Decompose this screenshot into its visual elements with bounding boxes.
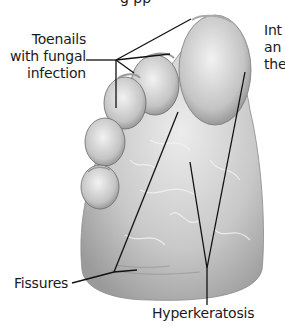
label-toenails-fungal-infection: Toenails with fungal infection xyxy=(0,31,86,82)
foot-illustration-figure: g pp xyxy=(0,0,285,327)
label-side-text-cropped: Int an the xyxy=(264,22,285,73)
label-line: the xyxy=(264,56,285,73)
fifth-toe xyxy=(81,165,119,209)
label-line: an xyxy=(264,39,285,56)
label-line: with fungal xyxy=(0,48,86,65)
label-line: Toenails xyxy=(0,31,86,48)
label-line: infection xyxy=(0,65,86,82)
label-hyperkeratosis: Hyperkeratosis xyxy=(152,305,254,322)
fourth-toe xyxy=(85,118,125,166)
label-line: Int xyxy=(264,22,285,39)
big-toe xyxy=(179,15,251,125)
label-fissures: Fissures xyxy=(14,275,68,292)
